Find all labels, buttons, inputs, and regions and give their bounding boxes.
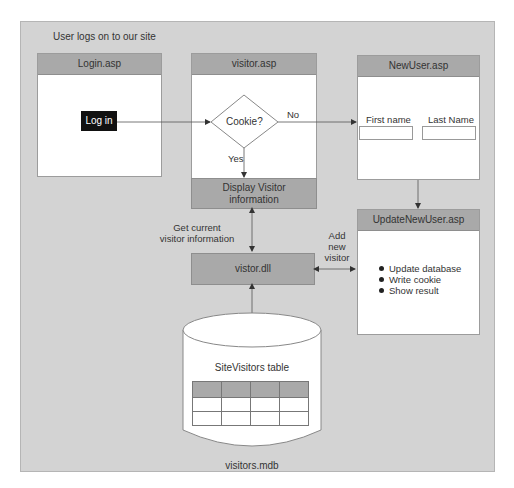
database-cylinder [183,313,321,446]
get-visitor-info-label: Get current visitor information [157,222,237,244]
add-new-visitor-label: Add new visitor [319,230,355,263]
add-new-visitor-line1: Add [319,230,355,241]
yes-label: Yes [228,153,244,164]
table-row [193,398,309,412]
get-visitor-info-line1: Get current [157,222,237,233]
cookie-decision-label: Cookie? [226,116,263,127]
site-visitors-table [192,381,309,426]
get-visitor-info-line2: visitor information [157,233,237,244]
table-header-row [193,382,309,398]
no-label: No [287,109,299,120]
add-new-visitor-line3: visitor [319,252,355,263]
site-visitors-table-label: SiteVisitors table [183,362,321,373]
table-row [193,412,309,426]
database-file-label: visitors.mdb [183,460,321,471]
add-new-visitor-line2: new [319,241,355,252]
